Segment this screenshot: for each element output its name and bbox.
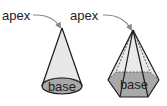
- pyramid-apex-label: apex: [70, 8, 99, 23]
- cone-apex-label: apex: [2, 8, 31, 23]
- cone-apex-arrow: [33, 15, 60, 27]
- pyramid-apex-arrow: [103, 15, 131, 29]
- cone: base: [42, 28, 82, 94]
- cone-base-label: base: [48, 79, 76, 94]
- pyramid-base-label: base: [120, 77, 148, 92]
- solids-diagram: base apex base apex: [0, 0, 167, 106]
- hexagonal-pyramid: base: [108, 30, 159, 97]
